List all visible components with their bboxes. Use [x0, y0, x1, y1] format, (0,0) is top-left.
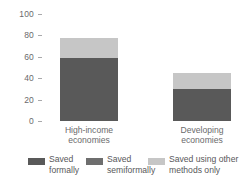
y-axis-tick-mark-80 — [38, 35, 42, 36]
category-label-developing-economies: Developing economies — [168, 125, 236, 145]
plot-area: 100 80 60 40 20 0 High-income economies … — [0, 0, 248, 150]
y-axis-tick-label-20: 20 — [0, 96, 34, 105]
legend-label-saved-using-other-methods-only: Saved using other methods only — [169, 154, 238, 175]
y-axis-tick-label-80: 80 — [0, 31, 34, 40]
y-axis-tick-mark-20 — [38, 100, 42, 101]
bar-developing-economies — [173, 73, 231, 122]
category-label-line2: economies — [168, 135, 236, 145]
y-axis-tick-label-60: 60 — [0, 53, 34, 62]
category-label-line2: economies — [55, 135, 123, 145]
y-axis-tick-mark-40 — [38, 78, 42, 79]
bar-segment-saved-formally-high-income — [60, 58, 118, 121]
stacked-bar-chart: 100 80 60 40 20 0 High-income economies … — [0, 0, 248, 195]
bar-segment-saved-formally-developing — [173, 89, 231, 121]
legend-swatch-saved-formally-icon — [28, 158, 45, 165]
bar-high-income-economies — [60, 38, 118, 121]
chart-legend: Saved formally Saved semiformally Saved … — [0, 156, 248, 195]
y-axis-tick-mark-0 — [38, 121, 42, 122]
category-label-line1: High-income — [55, 125, 123, 135]
y-axis-tick-label-100: 100 — [0, 10, 34, 19]
legend-label-saved-formally: Saved formally — [49, 154, 79, 175]
y-axis-tick-mark-60 — [38, 57, 42, 58]
y-axis-tick-label-40: 40 — [0, 74, 34, 83]
bar-segment-saved-other-developing — [173, 73, 231, 89]
legend-swatch-saved-other-icon — [148, 158, 165, 165]
legend-swatch-saved-semiformally-icon — [86, 158, 103, 165]
category-label-line1: Developing — [168, 125, 236, 135]
y-axis-tick-label-0: 0 — [0, 117, 34, 126]
bar-segment-saved-other-high-income — [60, 38, 118, 58]
y-axis-tick-mark-100 — [38, 14, 42, 15]
category-label-high-income-economies: High-income economies — [55, 125, 123, 145]
